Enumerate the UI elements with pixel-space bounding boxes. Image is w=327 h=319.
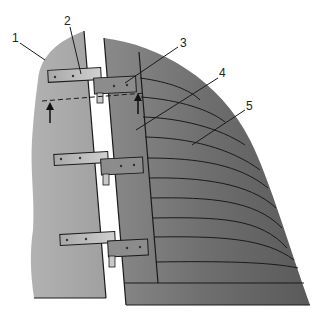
label-3: 3 [180, 36, 187, 50]
label-4: 4 [219, 66, 226, 80]
label-5: 5 [246, 99, 253, 113]
hinged-panel-diagram: 1 2 3 4 5 [0, 0, 327, 319]
label-1: 1 [12, 31, 19, 45]
label-2: 2 [64, 14, 71, 28]
